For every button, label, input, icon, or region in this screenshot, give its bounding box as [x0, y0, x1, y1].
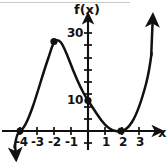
marked-points — [17, 38, 125, 135]
y-tick-label-10: 10 — [67, 94, 83, 106]
x-tick-label-neg3: -3 — [31, 136, 44, 148]
x-tick-label-2: 2 — [119, 136, 127, 148]
x-tick-label-neg1: -1 — [65, 136, 78, 148]
cubic-function-graph: f(x) x 30 10 -4 -3 -2 -1 1 2 3 — [0, 0, 168, 162]
x-tick-label-neg4: -4 — [15, 136, 28, 148]
y-axis-label: f(x) — [74, 3, 100, 16]
point-x-intercept-neg4 — [17, 128, 24, 135]
point-double-root-minimum — [117, 127, 124, 134]
x-axis-label: x — [158, 126, 166, 139]
y-tick-label-30: 30 — [67, 27, 83, 39]
x-tick-label-1: 1 — [102, 136, 110, 148]
function-curve — [15, 22, 153, 153]
point-y-intercept — [84, 97, 91, 104]
x-tick-label-neg2: -2 — [48, 136, 61, 148]
x-axis — [2, 127, 156, 135]
curve-arrow-upper-right — [151, 22, 152, 56]
x-tick-label-3: 3 — [136, 136, 144, 148]
point-local-maximum — [50, 38, 57, 45]
